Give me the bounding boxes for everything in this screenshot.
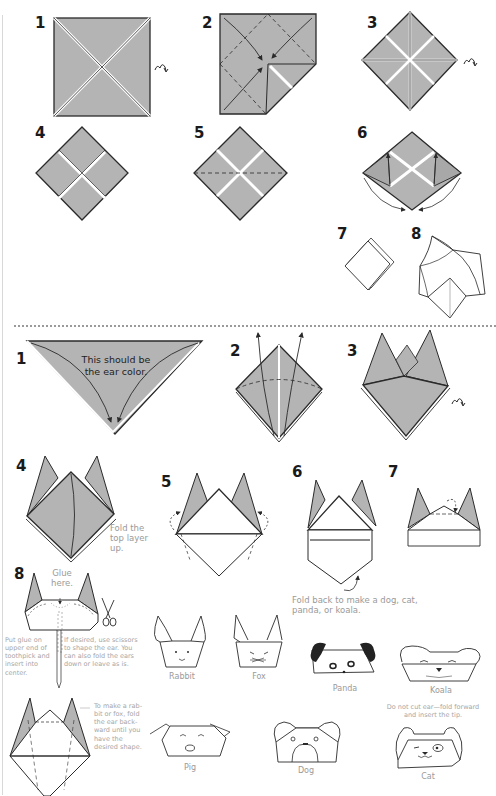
ear-color-note-line1: This should be [74, 354, 158, 366]
rabbit-fox-note: To make a rab- bit or fox, fold the ear … [94, 702, 150, 751]
toothpick-note: Put glue on upper end of toothpick and i… [5, 636, 57, 677]
part2-step-5-number: 5 [161, 475, 171, 490]
note-line: Do not cut ear—fold forward [378, 703, 488, 711]
part1-step2-square [220, 14, 316, 114]
part1-step-6-number: 6 [357, 126, 367, 141]
scissors-note: If desired, use scissors to shape the ea… [64, 636, 144, 669]
part2-step7-shape [408, 488, 480, 546]
koala-face [400, 646, 480, 681]
part1-step6-shape [363, 132, 461, 210]
part1-step-5-number: 5 [194, 126, 204, 141]
note-line: bit or fox, fold [94, 710, 150, 718]
note-line: insert into [5, 660, 57, 668]
part1-step-4-number: 4 [35, 126, 45, 141]
caption-line: panda, or koala. [292, 606, 418, 616]
fox-face [234, 615, 282, 667]
part2-step5-shape [170, 473, 268, 576]
part2-step4-shape [26, 456, 116, 562]
part1-step1-square [54, 18, 150, 116]
note-line: and insert the tip. [378, 711, 488, 719]
dog-face [274, 722, 340, 762]
koala-label: Koala [416, 686, 466, 695]
ear-color-note-line2: the ear color. [74, 366, 158, 378]
pig-label: Pig [168, 763, 212, 772]
note-line: can also fold the ears [64, 652, 144, 660]
note-line: center. [5, 669, 57, 677]
note-line: desired shape. [94, 743, 150, 751]
part1-step-3-number: 3 [367, 16, 377, 31]
panda-label: Panda [320, 684, 370, 693]
cat-label: Cat [406, 772, 450, 781]
part1-step-7-number: 7 [337, 227, 347, 242]
section-divider [14, 325, 496, 327]
part2-step-8-number: 8 [14, 567, 24, 582]
part2-step3-shape [361, 330, 450, 440]
part2-step2-shape [236, 333, 322, 442]
part1-step-2-number: 2 [202, 16, 212, 31]
part1-step5-diamond [194, 127, 287, 220]
note-line: the ear back- [94, 718, 150, 726]
dog-label: Dog [284, 766, 328, 775]
pig-face [150, 724, 230, 756]
note-line: To make a rab- [94, 702, 150, 710]
cat-note: Do not cut ear—fold forward and insert t… [378, 703, 488, 719]
rabbit-label: Rabbit [160, 672, 204, 681]
part2-step6-shape [308, 480, 376, 591]
part1-step8-shape [419, 236, 485, 318]
part2-step-4-number: 4 [16, 459, 26, 474]
fold-top-layer-caption: Fold the top layer up. [110, 524, 148, 553]
part2-step-3-number: 3 [347, 344, 357, 359]
note-line: upper end of [5, 644, 57, 652]
turn-over-icon [155, 65, 168, 72]
part2-step-1-number: 1 [16, 352, 26, 367]
part2-step-6-number: 6 [292, 465, 302, 480]
turn-over-icon [452, 399, 465, 406]
note-line: Put glue on [5, 636, 57, 644]
note-line: to shape the ear. You [64, 644, 144, 652]
part2-rabbit-fox-shape [10, 698, 90, 796]
part1-step-1-number: 1 [35, 16, 45, 31]
note-line: toothpick and [5, 652, 57, 660]
turn-over-icon [464, 59, 477, 66]
scissors-icon [102, 598, 116, 626]
part2-step-7-number: 7 [388, 465, 398, 480]
part1-step4-diamond [36, 127, 128, 220]
part2-step-2-number: 2 [230, 344, 240, 359]
cat-face [396, 728, 462, 768]
origami-instructions-page: 1 2 3 4 5 6 7 8 1 2 3 4 5 6 7 8 This sho… [0, 0, 496, 796]
glue-line: here. [50, 579, 74, 589]
part1-step-8-number: 8 [411, 227, 421, 242]
note-line: ward until you [94, 726, 150, 734]
fold-back-caption: Fold back to make a dog, cat, panda, or … [292, 596, 418, 616]
part1-step7-shape [345, 238, 394, 290]
rabbit-face [154, 616, 205, 667]
fox-label: Fox [237, 672, 281, 681]
note-line: If desired, use scissors [64, 636, 144, 644]
glue-here-label: Glue here. [50, 569, 74, 589]
panda-face [311, 643, 376, 673]
caption-line: up. [110, 544, 148, 554]
ear-color-note: This should be the ear color. [74, 354, 158, 378]
note-line: have the [94, 735, 150, 743]
note-line: down or leave as is. [64, 660, 144, 668]
